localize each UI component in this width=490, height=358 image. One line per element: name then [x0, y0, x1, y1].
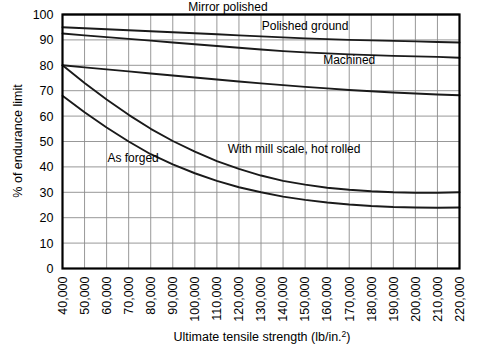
y-tick-label: 30: [40, 186, 54, 200]
y-tick-label: 10: [40, 237, 54, 251]
x-tick-label: 110,000: [210, 276, 224, 320]
x-tick-label: 40,000: [56, 276, 70, 314]
endurance-limit-chart: 0102030405060708090100 40,00050,00060,00…: [0, 0, 490, 358]
y-tick-label: 50: [40, 135, 54, 149]
curve-label-as-forged: As forged: [107, 151, 158, 165]
x-tick-label: 50,000: [78, 276, 92, 314]
y-tick-label: 0: [47, 262, 54, 276]
y-tick-label: 70: [40, 84, 54, 98]
y-tick-label: 90: [40, 33, 54, 47]
x-tick-label: 90,000: [166, 276, 180, 314]
x-tick-label: 200,000: [409, 276, 423, 321]
x-tick-label: 160,000: [320, 276, 334, 321]
curve-label-machined: Machined: [323, 53, 375, 67]
x-tick-label: 120,000: [232, 276, 246, 321]
y-tick-label: 60: [40, 110, 54, 124]
y-axis-title: % of endurance limit: [11, 84, 25, 198]
x-tick-label: 70,000: [122, 276, 136, 314]
curve-label-with-mill-scale-hot-rolled: With mill scale, hot rolled: [228, 142, 361, 156]
y-tick-label: 20: [40, 211, 54, 225]
x-tick-label: 100,000: [188, 276, 202, 321]
x-tick-label: 130,000: [254, 276, 268, 321]
x-tick-label: 80,000: [144, 276, 158, 314]
x-tick-label: 140,000: [276, 276, 290, 321]
x-tick-label: 60,000: [100, 276, 114, 314]
y-tick-label: 40: [40, 160, 54, 174]
curve-label-polished-ground: Polished ground: [262, 19, 349, 33]
y-tick-label: 80: [40, 59, 54, 73]
x-tick-label: 150,000: [298, 276, 312, 321]
y-tick-label: 100: [33, 8, 54, 22]
x-tick-label: 190,000: [387, 276, 401, 321]
x-tick-label: 210,000: [431, 276, 445, 321]
x-tick-label: 180,000: [365, 276, 379, 321]
x-tick-label: 170,000: [343, 276, 357, 321]
x-axis-title: Ultimate tensile strength (lb/in.2): [173, 329, 350, 345]
curve-label-mirror-polished: Mirror polished: [188, 0, 267, 14]
chart-figure: 0102030405060708090100 40,00050,00060,00…: [0, 0, 490, 358]
x-tick-label: 220,000: [453, 276, 467, 321]
